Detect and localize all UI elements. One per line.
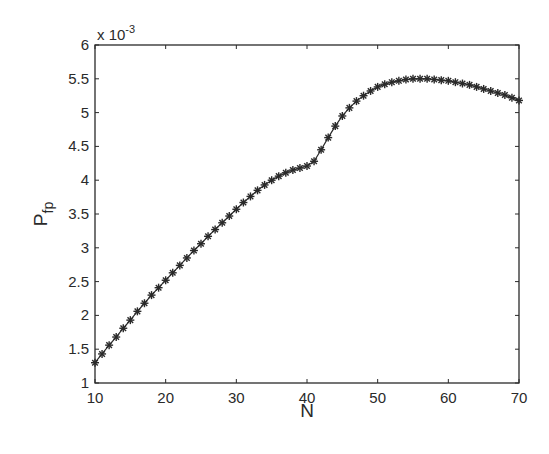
- asterisk-marker-icon: [352, 97, 360, 105]
- asterisk-marker-icon: [225, 212, 233, 220]
- y-axis-label-main: P: [30, 214, 51, 227]
- asterisk-marker-icon: [473, 83, 481, 91]
- asterisk-marker-icon: [381, 80, 389, 88]
- x-tick-label: 60: [440, 389, 457, 406]
- asterisk-marker-icon: [466, 81, 474, 89]
- asterisk-marker-icon: [275, 172, 283, 180]
- asterisk-marker-icon: [444, 77, 452, 85]
- asterisk-marker-icon: [395, 77, 403, 85]
- y-tick-label: 4.5: [68, 137, 89, 154]
- asterisk-marker-icon: [91, 359, 99, 367]
- x-tick-label: 10: [87, 389, 104, 406]
- asterisk-marker-icon: [501, 91, 509, 99]
- y-axis-ticks: 11.522.533.544.555.56: [68, 36, 519, 391]
- asterisk-marker-icon: [282, 169, 290, 177]
- asterisk-marker-icon: [487, 87, 495, 95]
- asterisk-marker-icon: [310, 157, 318, 165]
- y-tick-label: 3.5: [68, 205, 89, 222]
- y-tick-label: 3: [81, 239, 89, 256]
- y-tick-label: 5.5: [68, 70, 89, 87]
- asterisk-marker-icon: [317, 146, 325, 154]
- y-multiplier-base: x 10: [97, 26, 125, 43]
- asterisk-marker-icon: [458, 80, 466, 88]
- asterisk-marker-icon: [345, 104, 353, 112]
- asterisk-marker-icon: [430, 75, 438, 83]
- x-axis-ticks: 10203040506070: [87, 45, 528, 406]
- x-tick-label: 30: [228, 389, 245, 406]
- x-tick-label: 50: [369, 389, 386, 406]
- series-line: [95, 79, 519, 363]
- asterisk-marker-icon: [254, 186, 262, 194]
- asterisk-marker-icon: [133, 307, 141, 315]
- data-series-markers: [91, 75, 523, 367]
- y-tick-label: 1.5: [68, 340, 89, 357]
- plot-frame: [95, 45, 519, 383]
- asterisk-marker-icon: [338, 112, 346, 120]
- asterisk-marker-icon: [480, 85, 488, 93]
- asterisk-marker-icon: [423, 75, 431, 83]
- y-tick-label: 4: [81, 171, 89, 188]
- asterisk-marker-icon: [416, 75, 424, 83]
- asterisk-marker-icon: [374, 83, 382, 91]
- y-tick-label: 1: [81, 374, 89, 391]
- asterisk-marker-icon: [169, 269, 177, 277]
- asterisk-marker-icon: [261, 181, 269, 189]
- asterisk-marker-icon: [176, 261, 184, 269]
- asterisk-marker-icon: [494, 89, 502, 97]
- asterisk-marker-icon: [289, 166, 297, 174]
- asterisk-marker-icon: [437, 76, 445, 84]
- asterisk-marker-icon: [402, 75, 410, 83]
- asterisk-marker-icon: [451, 78, 459, 86]
- asterisk-marker-icon: [268, 176, 276, 184]
- asterisk-marker-icon: [331, 122, 339, 130]
- y-axis-multiplier: x 10-3: [97, 23, 135, 43]
- x-axis-label: N: [300, 400, 314, 421]
- asterisk-marker-icon: [303, 162, 311, 170]
- y-tick-label: 2: [81, 306, 89, 323]
- asterisk-marker-icon: [409, 75, 417, 83]
- x-tick-label: 70: [511, 389, 528, 406]
- y-tick-label: 2.5: [68, 273, 89, 290]
- asterisk-marker-icon: [515, 96, 523, 104]
- y-multiplier-exponent: -3: [125, 23, 135, 35]
- asterisk-marker-icon: [126, 316, 134, 324]
- chart: 10203040506070 11.522.533.544.555.56 N P…: [0, 0, 549, 454]
- asterisk-marker-icon: [324, 134, 332, 142]
- asterisk-marker-icon: [197, 240, 205, 248]
- data-series-line: [95, 79, 519, 363]
- x-tick-label: 20: [157, 389, 174, 406]
- asterisk-marker-icon: [190, 247, 198, 255]
- asterisk-marker-icon: [296, 164, 304, 172]
- y-tick-label: 6: [81, 36, 89, 53]
- asterisk-marker-icon: [211, 226, 219, 234]
- y-tick-label: 5: [81, 104, 89, 121]
- asterisk-marker-icon: [388, 78, 396, 86]
- asterisk-marker-icon: [508, 94, 516, 102]
- asterisk-marker-icon: [140, 299, 148, 307]
- plot-area-border: [95, 45, 519, 383]
- asterisk-marker-icon: [183, 254, 191, 262]
- y-axis-label: Pfp: [30, 202, 56, 227]
- asterisk-marker-icon: [204, 232, 212, 240]
- asterisk-marker-icon: [360, 92, 368, 100]
- asterisk-marker-icon: [367, 87, 375, 95]
- y-axis-label-subscript: fp: [40, 202, 56, 214]
